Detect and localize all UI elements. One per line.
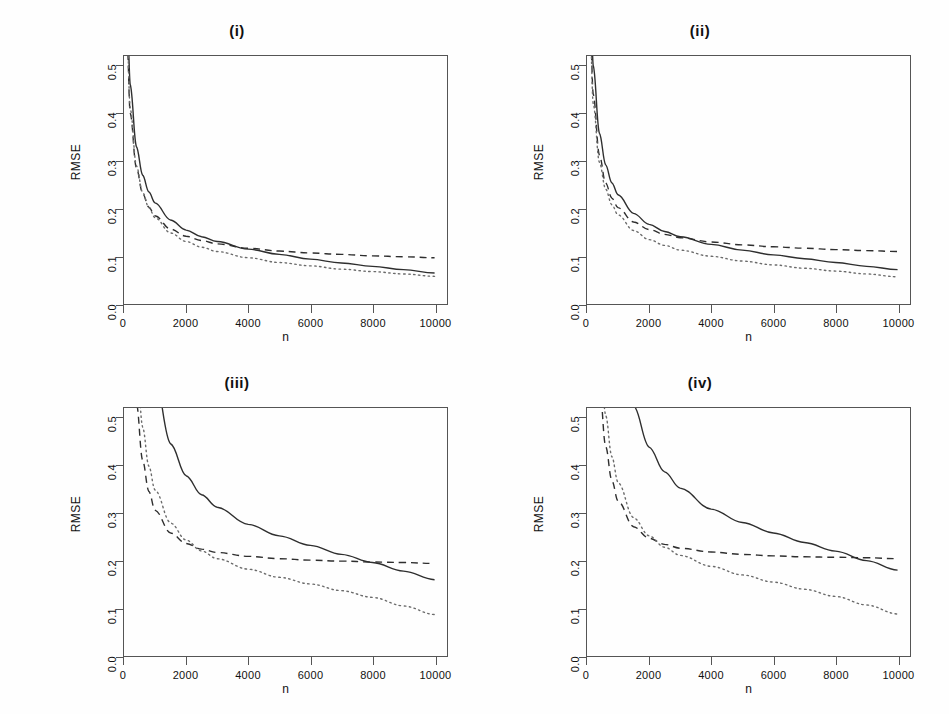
x-tick-label: 10000 — [882, 317, 914, 329]
curve-dotted — [590, 56, 897, 277]
curves-i — [124, 56, 447, 304]
x-axis-title: n — [586, 682, 911, 696]
panel-iii: (iii) RMSE 0.00.10.20.30.40.5 0200040006… — [0, 352, 474, 709]
y-axis-title: RMSE — [69, 496, 83, 533]
figure-canvas: (i) RMSE 0.00.10.20.30.40.5 020004000600… — [0, 0, 949, 714]
plot-area — [586, 407, 911, 657]
y-tick-label: 0.2 — [569, 560, 581, 576]
x-tick-label: 0 — [583, 317, 589, 329]
x-tick-mark — [774, 657, 775, 665]
x-tick-label: 8000 — [360, 317, 386, 329]
x-tick-mark — [248, 657, 249, 665]
x-tick-label: 6000 — [761, 669, 787, 681]
x-tick-label: 2000 — [636, 669, 662, 681]
x-tick-mark — [373, 305, 374, 313]
y-tick-label: 0.4 — [106, 464, 118, 480]
y-tick-label: 0.2 — [106, 560, 118, 576]
y-axis-title: RMSE — [69, 144, 83, 181]
x-tick-label: 2000 — [173, 669, 199, 681]
curve-dotted — [593, 408, 897, 614]
x-tick-label: 8000 — [360, 669, 386, 681]
x-tick-label: 6000 — [298, 317, 324, 329]
y-tick-label: 0.0 — [106, 656, 118, 672]
x-tick-mark — [711, 305, 712, 313]
curve-dotted — [130, 408, 434, 615]
x-tick-mark — [311, 305, 312, 313]
y-tick-label: 0.4 — [569, 112, 581, 128]
y-axis: 0.00.10.20.30.40.5 — [571, 55, 587, 305]
x-tick-mark — [836, 657, 837, 665]
x-tick-label: 6000 — [298, 669, 324, 681]
curve-dashed — [593, 408, 897, 559]
curves-iii — [124, 408, 447, 656]
x-tick-mark — [899, 657, 900, 665]
panel-title: (iii) — [0, 374, 474, 391]
plot-area — [123, 407, 448, 657]
x-tick-mark — [774, 305, 775, 313]
panel-title: (iv) — [463, 374, 937, 391]
x-axis-title: n — [586, 330, 911, 344]
x-tick-label: 0 — [120, 317, 126, 329]
x-axis-title: n — [123, 330, 448, 344]
x-tick-label: 8000 — [823, 669, 849, 681]
x-tick-label: 4000 — [698, 669, 724, 681]
y-tick-label: 0.0 — [569, 304, 581, 320]
curve-dashed — [130, 408, 434, 563]
y-tick-label: 0.0 — [106, 304, 118, 320]
panel-title: (i) — [0, 22, 474, 39]
x-tick-label: 2000 — [636, 317, 662, 329]
x-tick-label: 0 — [120, 669, 126, 681]
x-tick-mark — [836, 305, 837, 313]
panel-iv: (iv) RMSE 0.00.10.20.30.40.5 02000400060… — [463, 352, 937, 709]
x-tick-label: 2000 — [173, 317, 199, 329]
x-tick-mark — [186, 305, 187, 313]
plot-area — [123, 55, 448, 305]
y-tick-label: 0.5 — [106, 64, 118, 80]
panel-i: (i) RMSE 0.00.10.20.30.40.5 020004000600… — [0, 0, 474, 357]
curves-ii — [587, 56, 910, 304]
y-axis: 0.00.10.20.30.40.5 — [108, 407, 124, 657]
x-tick-mark — [123, 657, 124, 665]
x-tick-label: 6000 — [761, 317, 787, 329]
x-tick-label: 4000 — [235, 669, 261, 681]
y-axis: 0.00.10.20.30.40.5 — [571, 407, 587, 657]
y-tick-label: 0.1 — [106, 608, 118, 624]
x-tick-label: 10000 — [882, 669, 914, 681]
y-tick-label: 0.3 — [106, 160, 118, 176]
x-tick-mark — [311, 657, 312, 665]
y-tick-label: 0.1 — [569, 256, 581, 272]
curve-solid — [127, 56, 434, 273]
panel-title: (ii) — [463, 22, 937, 39]
x-tick-mark — [123, 305, 124, 313]
y-axis: 0.00.10.20.30.40.5 — [108, 55, 124, 305]
x-tick-mark — [373, 657, 374, 665]
x-tick-mark — [899, 305, 900, 313]
curve-solid — [130, 408, 434, 580]
y-tick-label: 0.2 — [569, 208, 581, 224]
y-tick-label: 0.1 — [106, 256, 118, 272]
x-tick-mark — [586, 657, 587, 665]
x-axis-title: n — [123, 682, 448, 696]
x-tick-mark — [649, 305, 650, 313]
y-tick-label: 0.0 — [569, 656, 581, 672]
y-tick-label: 0.4 — [569, 464, 581, 480]
y-tick-label: 0.3 — [106, 512, 118, 528]
curve-dashed — [590, 56, 897, 252]
y-axis-title: RMSE — [532, 144, 546, 181]
x-tick-label: 10000 — [419, 669, 451, 681]
x-tick-label: 4000 — [235, 317, 261, 329]
x-tick-mark — [436, 305, 437, 313]
y-tick-label: 0.5 — [569, 64, 581, 80]
x-tick-mark — [248, 305, 249, 313]
curve-dashed — [127, 56, 434, 258]
y-tick-label: 0.3 — [569, 512, 581, 528]
y-tick-label: 0.5 — [569, 416, 581, 432]
x-tick-label: 0 — [583, 669, 589, 681]
x-tick-mark — [186, 657, 187, 665]
y-axis-title: RMSE — [532, 496, 546, 533]
plot-area — [586, 55, 911, 305]
x-tick-mark — [711, 657, 712, 665]
curves-iv — [587, 408, 910, 656]
x-tick-mark — [586, 305, 587, 313]
curve-dotted — [127, 56, 434, 276]
